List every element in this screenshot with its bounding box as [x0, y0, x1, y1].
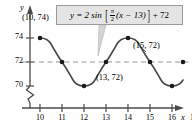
x-axis — [22, 104, 192, 112]
point-10-74 — [38, 36, 43, 41]
y-tick-label-70: 70 — [9, 80, 23, 89]
x-tick-label-10: 10 — [32, 113, 48, 122]
x-tick-label-12: 12 — [76, 113, 92, 122]
fraction-denominator: 2 — [110, 15, 115, 23]
fraction-numerator: π — [110, 8, 115, 15]
x-axis-label: x — [181, 112, 185, 122]
x-tick-label-15: 15 — [142, 113, 158, 122]
x-tick-label-13: 13 — [98, 113, 114, 122]
x-tick-label-17: 17 — [186, 113, 192, 122]
point-13-72 — [104, 60, 109, 65]
bracket-close: ] — [147, 10, 150, 21]
point-17-72 — [181, 60, 186, 65]
pi-over-two-fraction: π 2 — [110, 8, 115, 23]
equation-box: y = 2 sin [ π 2 (x − 13) ] + 72 — [56, 5, 183, 25]
equation-inner: (x − 13) — [116, 11, 146, 20]
bracket-open: [ — [105, 10, 108, 21]
annotation-10-74: (10, 74) — [22, 12, 49, 22]
annotation-13-72: (13, 72) — [96, 72, 123, 82]
y-tick-label-74: 74 — [9, 32, 23, 41]
x-tick-label-16: 16 — [164, 113, 180, 122]
point-16-70 — [170, 84, 175, 89]
axis-break-icon — [27, 86, 34, 103]
equation-text: y = 2 sin [ π 2 (x − 13) ] + 72 — [70, 8, 169, 23]
annotation-15-72: (15, 72) — [133, 40, 160, 50]
y-tick-label-72: 72 — [9, 56, 23, 65]
point-14-74 — [126, 36, 131, 41]
equation-prefix: y = 2 sin — [70, 11, 102, 20]
x-tick-label-14: 14 — [120, 113, 136, 122]
x-tick-label-11: 11 — [54, 113, 70, 122]
point-15-72 — [148, 60, 153, 65]
equation-suffix: + 72 — [153, 11, 169, 20]
y-axis-label: y — [20, 2, 24, 12]
point-11-72 — [60, 60, 65, 65]
equation-callout-pointer — [98, 25, 106, 56]
trig-graph-figure: y = 2 sin [ π 2 (x − 13) ] + 72 y x 74 7… — [0, 0, 192, 132]
point-12-70 — [82, 84, 87, 89]
